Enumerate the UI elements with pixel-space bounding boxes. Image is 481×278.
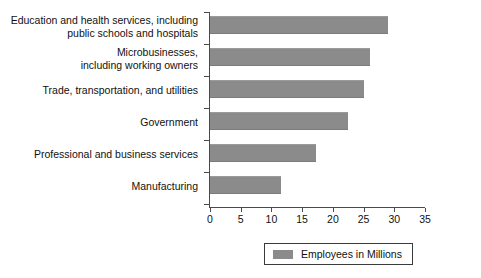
x-axis-tick-label: 15: [287, 213, 317, 225]
bar-series: [210, 12, 426, 208]
x-axis-tick-label: 25: [349, 213, 379, 225]
x-axis-tick: [210, 208, 211, 212]
x-axis-tick: [364, 208, 365, 212]
category-label: Microbusinesses, including working owner…: [0, 46, 198, 71]
bar: [210, 48, 370, 66]
bar: [210, 112, 348, 130]
y-axis-tick: [204, 108, 209, 109]
x-axis-tick: [333, 208, 334, 212]
x-axis-tick-label: 5: [226, 213, 256, 225]
plot-area: Education and health services, including…: [0, 0, 481, 232]
legend-label: Employees in Millions: [301, 248, 402, 260]
x-axis-tick: [241, 208, 242, 212]
y-axis-tick: [204, 44, 209, 45]
y-axis-tick: [204, 140, 209, 141]
x-axis-tick: [394, 208, 395, 212]
category-label: Government: [0, 116, 198, 129]
x-axis-tick-label: 20: [318, 213, 348, 225]
bar: [210, 80, 364, 98]
bar-chart: Education and health services, including…: [0, 0, 481, 278]
y-axis-tick: [204, 76, 209, 77]
y-axis-tick: [204, 172, 209, 173]
y-axis-tick: [204, 204, 209, 205]
x-axis-tick-label: 30: [379, 213, 409, 225]
y-axis-tick: [204, 12, 209, 13]
x-axis-tick-label: 0: [195, 213, 225, 225]
bar: [210, 176, 281, 194]
x-axis-tick: [425, 208, 426, 212]
bar: [210, 16, 388, 34]
x-axis-tick-label: 35: [410, 213, 440, 225]
category-label: Trade, transportation, and utilities: [0, 84, 198, 97]
category-label: Professional and business services: [0, 148, 198, 161]
category-label: Education and health services, including…: [0, 14, 198, 39]
bar: [210, 144, 316, 162]
x-axis-tick: [302, 208, 303, 212]
legend-swatch-icon: [273, 250, 293, 259]
x-axis-tick: [271, 208, 272, 212]
chart-legend: Employees in Millions: [264, 243, 413, 265]
category-label: Manufacturing: [0, 180, 198, 193]
category-axis-labels: Education and health services, including…: [0, 14, 204, 206]
x-axis-tick-label: 10: [256, 213, 286, 225]
